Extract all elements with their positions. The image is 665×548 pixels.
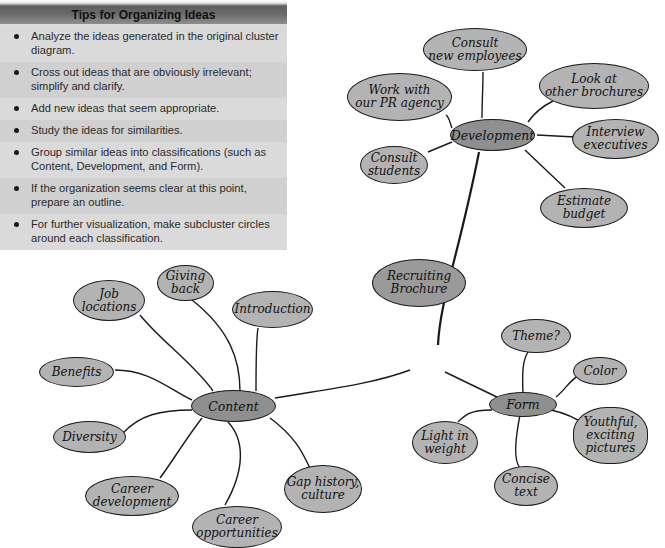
node-label: Color xyxy=(583,365,616,378)
node-label: Giving back xyxy=(166,270,205,296)
node-label: Career opportunities xyxy=(196,514,278,540)
node-label: Consult new employees xyxy=(428,37,521,63)
node-look-at-other-brochures: Look at other brochures xyxy=(539,63,649,109)
node-label: Interview executives xyxy=(583,126,647,152)
node-label: Career development xyxy=(93,483,171,509)
node-label: Benefits xyxy=(52,366,102,379)
node-label: Look at other brochures xyxy=(545,73,643,99)
node-career-opportunities: Career opportunities xyxy=(192,506,282,548)
node-estimate-budget: Estimate budget xyxy=(540,188,628,228)
node-label: Estimate budget xyxy=(557,195,611,221)
node-benefits: Benefits xyxy=(39,357,114,387)
node-label: Introduction xyxy=(235,303,311,316)
node-label: Theme? xyxy=(512,330,560,343)
node-recruiting-brochure: Recruiting Brochure xyxy=(372,259,466,307)
node-label: Work with our PR agency xyxy=(355,84,444,110)
node-consult-students: Consult students xyxy=(360,146,428,184)
node-introduction: Introduction xyxy=(232,291,313,328)
node-work-with-pr-agency: Work with our PR agency xyxy=(347,73,452,121)
node-gap-history-culture: Gap history, culture xyxy=(284,465,362,513)
node-job-locations: Job locations xyxy=(73,280,145,321)
node-concise-text: Concise text xyxy=(494,466,558,506)
node-label: Light in weight xyxy=(421,430,468,456)
node-youthful-exciting-pictures: Youthful, exciting pictures xyxy=(573,407,648,464)
node-career-development: Career development xyxy=(85,476,179,516)
node-giving-back: Giving back xyxy=(157,265,214,301)
node-content: Content xyxy=(191,390,276,422)
node-label: Diversity xyxy=(62,431,117,444)
node-label: Recruiting Brochure xyxy=(387,270,451,296)
node-label: Development xyxy=(451,129,535,142)
node-label: Job locations xyxy=(82,288,137,314)
node-label: Youthful, exciting pictures xyxy=(583,416,637,455)
node-form: Form xyxy=(489,392,557,417)
node-color: Color xyxy=(573,357,627,385)
node-label: Gap history, culture xyxy=(287,476,360,502)
node-diversity: Diversity xyxy=(53,421,126,453)
node-interview-executives: Interview executives xyxy=(572,119,659,159)
node-label: Concise text xyxy=(502,473,550,499)
node-label: Consult students xyxy=(368,152,420,178)
node-label: Content xyxy=(208,400,259,413)
node-label: Form xyxy=(506,398,539,411)
node-light-in-weight: Light in weight xyxy=(412,421,478,464)
node-development: Development xyxy=(450,119,535,151)
node-consult-new-employees: Consult new employees xyxy=(423,28,527,71)
node-theme: Theme? xyxy=(501,319,571,353)
